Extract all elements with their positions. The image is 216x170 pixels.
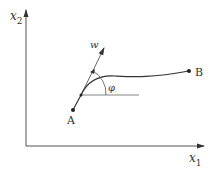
trajectory-curve xyxy=(81,71,189,95)
point-a xyxy=(71,108,75,112)
w-label: w xyxy=(90,39,99,50)
point-b xyxy=(187,69,191,73)
point-a-label: A xyxy=(66,114,76,127)
diagram-canvas: x2 x1 w φ A B xyxy=(0,0,216,170)
point-b-label: B xyxy=(195,66,203,79)
angle-arc-arrow xyxy=(90,69,95,74)
angle-arc xyxy=(93,71,106,95)
junction-point xyxy=(80,94,83,97)
segment-a xyxy=(73,95,81,110)
x-axis-label: x1 xyxy=(189,151,202,168)
phi-label: φ xyxy=(108,82,115,93)
y-axis-label: x2 xyxy=(10,9,23,26)
path-diagram: x2 x1 w φ A B xyxy=(0,0,216,170)
